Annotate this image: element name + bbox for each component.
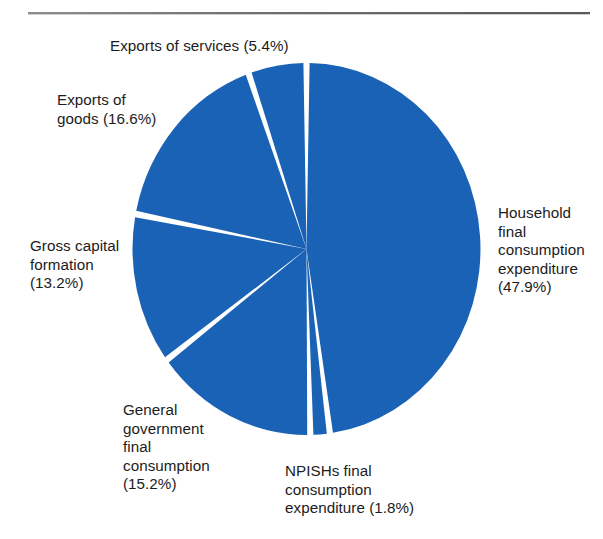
chart-page: Exports of services (5.4%) Exports of go… bbox=[0, 0, 603, 539]
slice-label-general-government: General government final consumption (15… bbox=[123, 401, 273, 494]
pie-slice-household[interactable] bbox=[307, 63, 481, 433]
slice-label-exports-of-goods: Exports of goods (16.6%) bbox=[57, 91, 207, 128]
slice-label-gross-capital-formation: Gross capital formation (13.2%) bbox=[30, 237, 170, 293]
slice-label-npishs: NPISHs final consumption expenditure (1.… bbox=[285, 462, 470, 518]
slice-label-exports-of-services: Exports of services (5.4%) bbox=[110, 37, 340, 56]
slice-label-household: Household final consumption expenditure … bbox=[498, 204, 603, 297]
